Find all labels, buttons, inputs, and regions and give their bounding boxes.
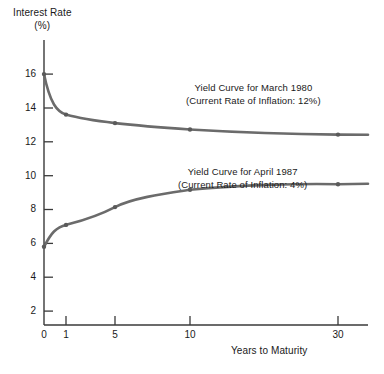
annotation-march-1980-line1: Yield Curve for March 1980 bbox=[186, 82, 321, 95]
y-tick-label-10: 10 bbox=[18, 170, 36, 181]
x-axis-ticks bbox=[66, 316, 338, 325]
y-tick-label-6: 6 bbox=[18, 237, 36, 248]
y-tick-label-4: 4 bbox=[18, 271, 36, 282]
x-tick-label-0: 0 bbox=[34, 329, 54, 340]
x-tick-label-30: 30 bbox=[328, 329, 348, 340]
annotation-march-1980: Yield Curve for March 1980 (Current Rate… bbox=[186, 82, 321, 107]
markers-april-1987 bbox=[42, 182, 340, 249]
x-axis-title: Years to Maturity bbox=[231, 344, 307, 357]
x-tick-label-5: 5 bbox=[105, 329, 125, 340]
x-tick-label-1: 1 bbox=[56, 329, 76, 340]
y-tick-label-2: 2 bbox=[18, 305, 36, 316]
annotation-march-1980-line2: (Current Rate of Inflation: 12%) bbox=[186, 95, 321, 108]
annotation-april-1987-line2: (Current Rate of Inflation: 4%) bbox=[178, 179, 307, 192]
curve-april-1987 bbox=[44, 184, 368, 247]
y-tick-label-14: 14 bbox=[18, 102, 36, 113]
y-tick-label-16: 16 bbox=[18, 68, 36, 79]
y-axis-title: Interest Rate (%) bbox=[13, 6, 72, 32]
annotation-april-1987: Yield Curve for April 1987 (Current Rate… bbox=[178, 166, 307, 191]
y-axis-title-line1: Interest Rate bbox=[13, 7, 72, 18]
x-tick-label-10: 10 bbox=[180, 329, 200, 340]
y-axis-ticks bbox=[44, 74, 53, 311]
annotation-april-1987-line1: Yield Curve for April 1987 bbox=[178, 166, 307, 179]
y-tick-label-12: 12 bbox=[18, 136, 36, 147]
chart-screenshot: Interest Rate (%) Years to Maturity 16 1… bbox=[0, 0, 384, 374]
y-tick-label-8: 8 bbox=[18, 203, 36, 214]
y-axis-title-line2: (%) bbox=[13, 19, 72, 32]
